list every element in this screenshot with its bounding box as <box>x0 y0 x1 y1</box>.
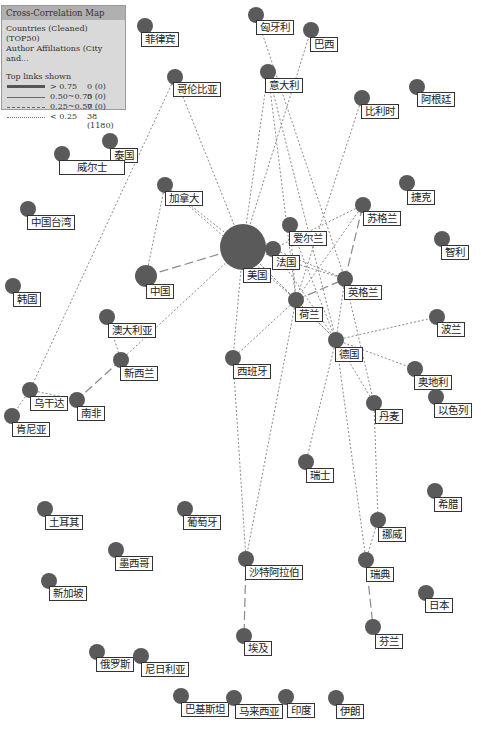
link-germany-poland <box>336 317 437 340</box>
node-label-canada: 加拿大 <box>165 191 203 206</box>
node-label-austria: 奥地利 <box>414 375 452 390</box>
legend-source-2: Author Affiliations (City and... <box>2 44 125 64</box>
link-belgium-netherlands <box>296 98 362 300</box>
link-usa-colombia <box>175 77 243 247</box>
dashed-line-swatch <box>7 107 45 108</box>
node-norway[interactable] <box>370 512 386 528</box>
node-label-chile: 智利 <box>441 245 469 260</box>
legend-count: 0 (0) <box>87 92 106 101</box>
node-thailand[interactable] <box>102 133 118 149</box>
link-germany-switzerland <box>306 340 336 462</box>
legend-count: 38 (1180) <box>87 112 125 130</box>
node-label-finland: 芬兰 <box>375 634 403 649</box>
link-newzealand-southafrica <box>77 360 121 400</box>
legend-count: 0 (0) <box>87 82 106 91</box>
legend-title: Cross-Correlation Map <box>2 6 125 20</box>
node-label-iran: 伊朗 <box>336 704 364 719</box>
legend-links-title: Top links shown <box>2 72 125 82</box>
dotted-line-swatch <box>7 117 45 118</box>
node-label-malaysia: 马来西亚 <box>235 704 283 719</box>
link-england-scotland <box>345 205 363 279</box>
legend-row-thick: > 0.75 0 (0) <box>2 82 125 92</box>
node-label-france: 法国 <box>272 255 300 270</box>
node-label-israel: 以色列 <box>434 403 472 418</box>
node-label-korea: 韩国 <box>13 292 41 307</box>
node-germany[interactable] <box>328 332 344 348</box>
node-label-turkey: 土耳其 <box>45 515 83 530</box>
node-label-uganda: 乌干达 <box>30 396 68 411</box>
node-label-kenya: 肯尼亚 <box>12 422 50 437</box>
link-spain-saudi <box>233 358 246 559</box>
node-finland[interactable] <box>365 619 381 635</box>
legend-row-dotted: < 0.25 38 (1180) <box>2 112 125 122</box>
link-canada-china <box>146 185 165 276</box>
node-label-czech: 捷克 <box>407 190 435 205</box>
node-label-newzealand: 新西兰 <box>120 366 158 381</box>
node-usa[interactable] <box>220 224 266 270</box>
link-usa-brazil <box>243 30 311 247</box>
node-label-portugal: 葡萄牙 <box>183 515 221 530</box>
legend-count: 7 (0) <box>87 102 106 111</box>
node-label-taiwan: 中国台湾 <box>27 215 75 230</box>
node-label-brazil: 巴西 <box>310 37 338 52</box>
node-label-singapore: 新加坡 <box>49 586 87 601</box>
node-label-netherlands: 荷兰 <box>295 307 323 322</box>
legend-panel: Cross-Correlation Map Countries (Cleaned… <box>1 5 126 110</box>
node-label-england: 英格兰 <box>344 285 382 300</box>
node-label-wales: 威尔士 <box>59 160 125 175</box>
node-label-belgium: 比利时 <box>361 104 399 119</box>
node-label-saudi: 沙特阿拉伯 <box>245 565 303 580</box>
node-label-argentina: 阿根廷 <box>417 92 455 107</box>
node-label-hungary: 匈牙利 <box>256 20 294 35</box>
node-brazil[interactable] <box>303 22 319 38</box>
node-label-philippines: 菲律宾 <box>141 32 179 47</box>
node-label-colombia: 哥伦比亚 <box>173 82 221 97</box>
legend-range: < 0.25 <box>50 112 77 121</box>
node-label-greece: 希腊 <box>434 497 462 512</box>
node-label-japan: 日本 <box>425 598 453 613</box>
node-label-poland: 波兰 <box>437 322 465 337</box>
node-label-denmark: 丹麦 <box>375 409 403 424</box>
legend-range: 0.25~0.50 <box>50 102 92 111</box>
node-label-italy: 意大利 <box>265 78 303 93</box>
node-netherlands[interactable] <box>288 292 304 308</box>
node-label-southafrica: 南非 <box>77 406 105 421</box>
solid-line-swatch <box>7 97 45 98</box>
node-label-germany: 德国 <box>335 347 363 362</box>
node-label-usa: 美国 <box>243 268 271 283</box>
node-label-australia: 澳大利亚 <box>108 323 156 338</box>
node-label-scotland: 苏格兰 <box>363 211 401 226</box>
node-sweden[interactable] <box>358 552 374 568</box>
node-label-china: 中国 <box>146 284 174 299</box>
link-germany-sweden <box>336 340 366 560</box>
legend-row-solid: 0.50~0.75 0 (0) <box>2 92 125 102</box>
thick-line-swatch <box>7 85 45 88</box>
cross-correlation-map: 菲律宾匈牙利巴西哥伦比亚意大利比利时阿根廷泰国威尔士加拿大捷克苏格兰中国台湾智利… <box>0 0 481 729</box>
node-czech[interactable] <box>399 175 415 191</box>
node-label-switzerland: 瑞士 <box>306 468 334 483</box>
node-label-egypt: 埃及 <box>244 641 272 656</box>
link-netherlands-spain <box>233 300 296 358</box>
node-label-spain: 西班牙 <box>233 364 271 379</box>
link-usa-newzealand <box>121 247 243 360</box>
legend-range: 0.50~0.75 <box>50 92 92 101</box>
node-label-mexico: 墨西哥 <box>115 556 153 571</box>
node-label-nigeria: 尼日利亚 <box>141 662 189 677</box>
node-label-russia: 俄罗斯 <box>96 657 134 672</box>
legend-row-dashed: 0.25~0.50 7 (0) <box>2 102 125 112</box>
node-label-india: 印度 <box>287 703 315 718</box>
legend-range: > 0.75 <box>50 82 77 91</box>
node-label-pakistan: 巴基斯坦 <box>181 702 229 717</box>
node-label-sweden: 瑞典 <box>366 567 394 582</box>
link-usa-italy <box>243 72 268 247</box>
node-label-ireland: 爱尔兰 <box>289 231 327 246</box>
node-label-norway: 挪威 <box>378 527 406 542</box>
legend-source-1: Countries (Cleaned) (TOP50) <box>2 24 125 44</box>
